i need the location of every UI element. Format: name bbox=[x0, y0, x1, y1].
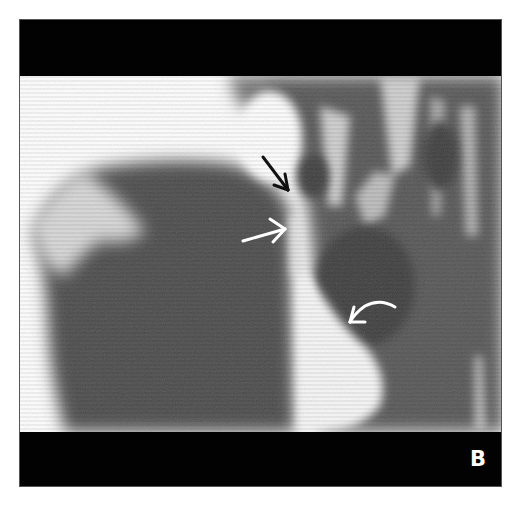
bottom-black-band bbox=[20, 432, 501, 487]
medical-scan-image bbox=[20, 76, 501, 432]
scan-illustration bbox=[20, 76, 501, 432]
figure-frame: B bbox=[19, 19, 502, 487]
top-black-band bbox=[20, 20, 501, 76]
panel-label: B bbox=[470, 447, 486, 471]
